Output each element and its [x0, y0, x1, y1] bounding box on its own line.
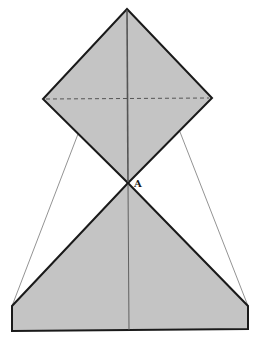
- point-a-label: A: [133, 178, 142, 189]
- origami-diagram: A: [0, 0, 257, 343]
- bottom-flap: [12, 183, 248, 331]
- center-crease-top: [127, 10, 128, 182]
